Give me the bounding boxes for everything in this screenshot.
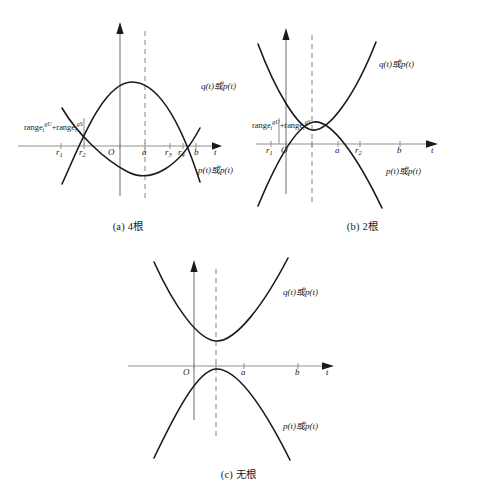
caption-panel-b: (b) 2根 — [248, 218, 477, 233]
caption-panel-a: (a) 4根 — [0, 218, 256, 233]
tick-label-b-panel-a: b — [194, 148, 199, 157]
origin-label-panel-a: O — [108, 148, 115, 157]
tick-label-r1-panel-a: r1 — [56, 148, 63, 158]
curve-label-q-panel-a: q(t)或p(t) — [201, 82, 236, 91]
plot-area-panel-a — [0, 0, 256, 240]
tick-label-r2-panel-a: r2 — [79, 148, 86, 158]
t-axis-panel-c — [128, 362, 334, 370]
axis-label-t-panel-a: t — [214, 148, 217, 157]
y-axis-panel-c — [190, 260, 197, 420]
axis-label-t-panel-b: t — [431, 146, 434, 155]
origin-label-panel-b: O — [281, 146, 288, 155]
axis-label-t-panel-c: t — [326, 368, 329, 377]
curve-p-lower-panel-a — [62, 82, 200, 184]
tick-label-r3-panel-a: r3 — [165, 148, 172, 158]
curve-label-p-panel-b: p(t)或p(t) — [386, 167, 421, 176]
curve-q-upper-panel-c — [154, 258, 288, 341]
y-axis-panel-b — [282, 28, 289, 194]
tick-label-a-panel-a: a — [142, 148, 147, 157]
tick-label-a-panel-b: a — [335, 146, 340, 155]
curve-label-q-panel-c: q(t)或p(t) — [283, 288, 318, 297]
curve-q-upper-panel-a — [62, 108, 200, 176]
curve-label-p-panel-a: p(t)或p(t) — [198, 166, 233, 175]
tick-label-r1-panel-b: r1 — [266, 146, 273, 156]
tick-label-b-panel-b: b — [397, 146, 402, 155]
origin-label-panel-c: O — [183, 368, 190, 377]
range-annotation-panel-a: rangeigU+rangeigS — [24, 121, 83, 133]
curve-p-lower-panel-b — [258, 122, 382, 208]
curve-label-q-panel-b: q(t)或p(t) — [379, 60, 414, 69]
tick-label-b-panel-c: b — [295, 368, 300, 377]
panel-2-roots: rangeigU+rangeigS q(t)或p(t) p(t)或p(t) r1… — [248, 6, 477, 240]
caption-panel-c: (c) 无根 — [0, 466, 477, 481]
range-annotation-panel-b: rangeigU+rangeigS — [252, 119, 311, 131]
tick-label-r2-panel-b: r2 — [355, 146, 362, 156]
tick-label-r4-panel-a: r4 — [178, 148, 185, 158]
panel-no-roots: q(t)或p(t) p(t)或p(t) O a b t — [118, 248, 368, 494]
panel-4-roots: rangeigU+rangeigS q(t)或p(t) p(t)或p(t) r1… — [0, 0, 256, 240]
curve-q-upper-panel-b — [258, 42, 376, 130]
curve-p-lower-panel-c — [154, 369, 290, 460]
tick-label-a-panel-c: a — [241, 368, 246, 377]
curve-label-p-panel-c: p(t)或p(t) — [283, 422, 318, 431]
